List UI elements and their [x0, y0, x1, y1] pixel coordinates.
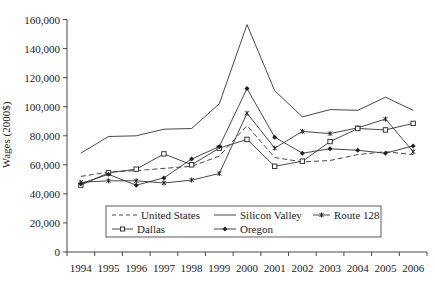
- x-axis: 1994199519961997199819992000200120022003…: [67, 252, 427, 274]
- x-tick-label: 1995: [98, 262, 121, 274]
- y-axis: 020,00040,00060,00080,000100,000120,0001…: [24, 14, 67, 259]
- y-tick-label: 60,000: [30, 159, 61, 171]
- square-marker-icon: [162, 152, 166, 156]
- diamond-marker-icon: [245, 86, 250, 91]
- diamond-marker-icon: [161, 175, 166, 180]
- y-axis-title: Wages (2000$): [0, 101, 13, 168]
- series-layer: [78, 25, 415, 188]
- x-tick-label: 1996: [125, 262, 148, 274]
- x-tick-label: 1994: [70, 262, 93, 274]
- svg-text:Route 128: Route 128: [334, 209, 380, 221]
- svg-text:Silicon Valley: Silicon Valley: [240, 209, 302, 221]
- x-tick-label: 1997: [153, 262, 176, 274]
- square-marker-icon: [356, 126, 360, 130]
- diamond-marker-icon: [134, 183, 139, 188]
- square-marker-icon: [272, 164, 276, 168]
- y-tick-label: 40,000: [30, 188, 61, 200]
- diamond-marker-icon: [300, 151, 305, 156]
- star-marker-icon: [273, 146, 277, 151]
- svg-text:Oregon: Oregon: [240, 223, 273, 235]
- x-tick-label: 2003: [319, 262, 342, 274]
- svg-text:Dallas: Dallas: [137, 223, 165, 235]
- square-marker-icon: [328, 139, 332, 143]
- square-marker-icon: [189, 163, 193, 167]
- wages-line-chart: 020,00040,00060,00080,000100,000120,0001…: [0, 0, 435, 282]
- x-tick-label: 1998: [181, 262, 204, 274]
- star-marker-icon: [411, 149, 415, 154]
- y-tick-label: 100,000: [24, 101, 60, 113]
- svg-text:United States: United States: [141, 209, 200, 221]
- square-marker-icon: [134, 167, 138, 171]
- square-marker-icon: [383, 128, 387, 132]
- series-route-128: [79, 111, 415, 186]
- diamond-marker-icon: [272, 135, 277, 140]
- y-tick-label: 0: [55, 246, 61, 258]
- y-tick-label: 20,000: [30, 217, 61, 229]
- square-marker-icon: [300, 159, 304, 163]
- diamond-marker-icon: [189, 157, 194, 162]
- square-marker-icon: [245, 137, 249, 141]
- square-marker-icon: [411, 121, 415, 125]
- x-tick-label: 2006: [402, 262, 425, 274]
- x-tick-label: 2002: [291, 262, 313, 274]
- x-tick-label: 2000: [236, 262, 259, 274]
- x-tick-label: 2005: [374, 262, 397, 274]
- y-tick-label: 160,000: [24, 14, 60, 26]
- y-tick-label: 140,000: [24, 43, 60, 55]
- legend: United States Silicon Valley Route 128 D…: [106, 206, 381, 237]
- diamond-marker-icon: [355, 148, 360, 153]
- y-tick-label: 120,000: [24, 72, 60, 84]
- y-tick-label: 80,000: [30, 130, 61, 142]
- diamond-marker-icon: [411, 143, 416, 148]
- diamond-marker-icon: [328, 146, 333, 151]
- x-tick-label: 2004: [347, 262, 370, 274]
- star-marker-icon: [245, 111, 249, 116]
- x-tick-label: 2001: [264, 262, 286, 274]
- square-marker-icon: [121, 227, 125, 231]
- x-tick-label: 1999: [208, 262, 231, 274]
